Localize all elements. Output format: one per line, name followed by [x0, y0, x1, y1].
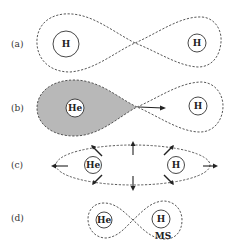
- arrow-left-icon: [51, 164, 68, 169]
- atom-h-d-label: H: [157, 214, 166, 224]
- atom-he-b-label: He: [68, 103, 83, 113]
- ms-annotation: MS: [155, 231, 171, 241]
- panel-a: (a) H H: [11, 14, 221, 72]
- atom-he-c-label: He: [86, 160, 101, 170]
- panel-d: (d) He H MS: [11, 201, 182, 241]
- panel-b: (b) He H: [11, 80, 223, 136]
- panel-label-b: (b): [11, 103, 24, 113]
- atom-h-right-a-label: H: [193, 38, 202, 48]
- atom-h-b-label: H: [194, 101, 203, 111]
- diagram-canvas: (a) H H (b) He H (c) He H: [0, 0, 236, 250]
- arrow-up-icon: [131, 141, 136, 155]
- atom-h-left-a-label: H: [62, 39, 71, 49]
- arrow-down-icon: [131, 176, 136, 191]
- panel-c: (c) He H: [11, 141, 218, 191]
- panel-label-c: (c): [11, 160, 23, 170]
- arrow-right-icon: [203, 164, 218, 169]
- atom-he-d-label: He: [97, 215, 112, 225]
- shaded-lobe-he: [37, 80, 137, 136]
- panel-label-d: (d): [11, 213, 24, 223]
- panel-label-a: (a): [11, 39, 23, 49]
- atom-h-c-label: H: [172, 160, 181, 170]
